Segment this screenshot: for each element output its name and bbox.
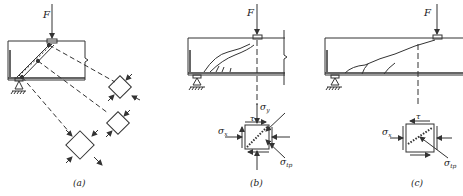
force-label-a: F [42, 9, 51, 20]
stress-element-3 [66, 130, 102, 165]
leader-line [22, 77, 70, 133]
crack-line [247, 127, 267, 147]
beam-outline [188, 38, 285, 75]
panel-a [8, 4, 140, 165]
break-mark [85, 41, 88, 80]
sigma-y-label: σy [260, 102, 270, 114]
crack [216, 66, 231, 72]
stress-element-1 [108, 74, 140, 101]
strut-edge [17, 44, 50, 77]
break-mark [284, 30, 287, 85]
panel-b [188, 4, 290, 170]
panel-c [325, 4, 463, 158]
sigma-tp-label: σtp [444, 158, 457, 170]
ground-hatch-icon [189, 87, 205, 90]
support-icon [193, 78, 201, 85]
caption-b: (b) [250, 178, 263, 188]
ground-hatch-icon [326, 87, 342, 90]
stress-element-2 [106, 110, 130, 137]
stress-element [406, 124, 434, 152]
leader-line [38, 61, 108, 113]
force-label-c: F [423, 7, 432, 18]
crack-line [408, 128, 432, 144]
sigma-tp-arrow [266, 113, 285, 131]
sigma-tp-label: σtp [280, 157, 293, 169]
crack [204, 44, 250, 72]
caption-a: (a) [73, 178, 86, 188]
ground-hatch-icon [11, 91, 26, 94]
crack [210, 45, 254, 72]
support-icon [331, 78, 339, 85]
force-label-b: F [246, 7, 255, 18]
beam-outline [325, 38, 463, 75]
strut-crack [19, 44, 52, 76]
sigma-x-label: σx [382, 127, 392, 138]
beam-crack-diagram: F (a) F σy τ σx σtp (b) [0, 0, 463, 196]
crack [345, 40, 435, 73]
tau-label: τ [250, 114, 255, 123]
stress-element [245, 125, 269, 149]
tau-label: τ [416, 112, 421, 121]
support-icon [15, 81, 23, 89]
caption-c: (c) [411, 178, 424, 188]
sigma-x-label: σx [218, 126, 228, 137]
